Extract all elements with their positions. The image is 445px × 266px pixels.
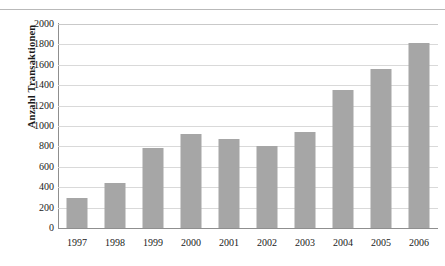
- bar-2006[interactable]: [409, 43, 430, 228]
- bar-slot: [96, 24, 134, 228]
- y-tick-label-400: 400: [14, 182, 54, 192]
- x-tick-label-1997: 1997: [67, 237, 87, 249]
- x-tick-label-2004: 2004: [333, 237, 353, 249]
- bar-slot: [210, 24, 248, 228]
- y-axis-tick-labels: 0200400600800100012001400160018002000: [14, 24, 54, 228]
- bar-slot: [286, 24, 324, 228]
- x-tick-label-2005: 2005: [371, 237, 391, 249]
- bar-series: [58, 24, 438, 228]
- x-tick-label-2002: 2002: [257, 237, 277, 249]
- x-tick-label-2000: 2000: [181, 237, 201, 249]
- y-tick-label-1200: 1200: [14, 101, 54, 111]
- page-top-ghost-text: [28, 0, 88, 8]
- bar-2004[interactable]: [333, 90, 354, 228]
- y-tick-label-2000: 2000: [14, 19, 54, 29]
- bar-slot: [362, 24, 400, 228]
- bar-slot: [58, 24, 96, 228]
- x-tick-label-2006: 2006: [409, 237, 429, 249]
- y-tick-label-200: 200: [14, 203, 54, 213]
- plot-area: [58, 24, 438, 228]
- bar-chart-figure: Anzahl Transaktionen 0200400600800100012…: [0, 9, 445, 266]
- bar-slot: [134, 24, 172, 228]
- bar-slot: [324, 24, 362, 228]
- bar-1997[interactable]: [67, 198, 88, 228]
- x-tick-label-1999: 1999: [143, 237, 163, 249]
- x-axis-tick-labels: 1997199819992000200120022003200420052006: [58, 237, 438, 253]
- bar-slot: [248, 24, 286, 228]
- bar-2001[interactable]: [219, 139, 240, 228]
- y-tick-label-1800: 1800: [14, 39, 54, 49]
- y-tick-label-1000: 1000: [14, 121, 54, 131]
- x-tick-label-1998: 1998: [105, 237, 125, 249]
- y-tick-label-0: 0: [14, 223, 54, 233]
- bar-slot: [400, 24, 438, 228]
- gridline-0: [58, 228, 438, 229]
- x-tick-label-2001: 2001: [219, 237, 239, 249]
- x-tick-label-2003: 2003: [295, 237, 315, 249]
- y-tick-label-1400: 1400: [14, 80, 54, 90]
- bar-1998[interactable]: [105, 183, 126, 228]
- bar-slot: [172, 24, 210, 228]
- bar-2002[interactable]: [257, 146, 278, 228]
- y-tick-label-1600: 1600: [14, 60, 54, 70]
- y-tick-label-800: 800: [14, 141, 54, 151]
- y-tick-label-600: 600: [14, 162, 54, 172]
- bar-1999[interactable]: [143, 148, 164, 228]
- bar-2005[interactable]: [371, 69, 392, 228]
- bar-2000[interactable]: [181, 134, 202, 228]
- bar-2003[interactable]: [295, 132, 316, 228]
